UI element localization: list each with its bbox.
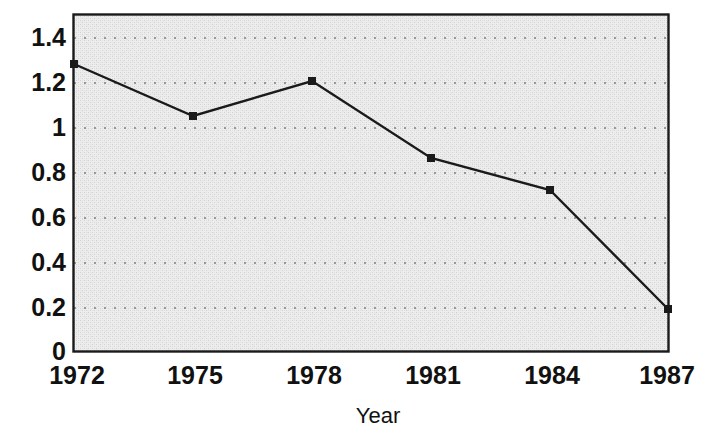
x-axis-title: Year [356, 403, 400, 428]
x-tick-label-1972: 1972 [49, 361, 105, 389]
data-point-1981 [427, 154, 435, 162]
plot-area [73, 14, 669, 352]
x-tick-label-1984: 1984 [524, 361, 580, 389]
y-tick-label-0.8: 0.8 [31, 158, 66, 186]
data-point-1984 [546, 186, 554, 194]
plot-background-noise [73, 14, 669, 352]
x-tick-label-1975: 1975 [167, 361, 223, 389]
x-tick-label-1981: 1981 [405, 361, 461, 389]
data-point-1987 [664, 305, 672, 313]
data-point-1972 [70, 60, 78, 68]
y-tick-label-1.2: 1.2 [31, 68, 66, 96]
data-point-1975 [189, 112, 197, 120]
x-tick-label-1987: 1987 [639, 361, 695, 389]
y-tick-label-0.6: 0.6 [31, 203, 66, 231]
y-tick-label-0.2: 0.2 [31, 293, 66, 321]
y-tick-label-1: 1 [52, 113, 66, 141]
data-point-1978 [308, 77, 316, 85]
y-tick-label-0.4: 0.4 [31, 248, 66, 276]
line-chart-figure: 1.4 1.2 1 0.8 0.6 0.4 0.2 0 1972 1975 19… [0, 0, 712, 443]
y-tick-label-1.4: 1.4 [31, 23, 66, 51]
x-tick-label-1978: 1978 [286, 361, 342, 389]
chart-svg: 1.4 1.2 1 0.8 0.6 0.4 0.2 0 1972 1975 19… [0, 0, 712, 443]
